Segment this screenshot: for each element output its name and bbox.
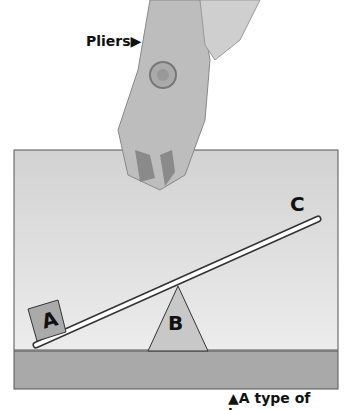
pliers-label: Pliers▶ [86,33,141,49]
caption: ▲A type of lever [228,390,348,410]
point-b-label: B [168,311,183,335]
point-c-label: C [290,192,305,216]
ground [14,351,338,389]
lever-diagram: Pliers▶ C B A ▲A type of lever [0,0,348,410]
